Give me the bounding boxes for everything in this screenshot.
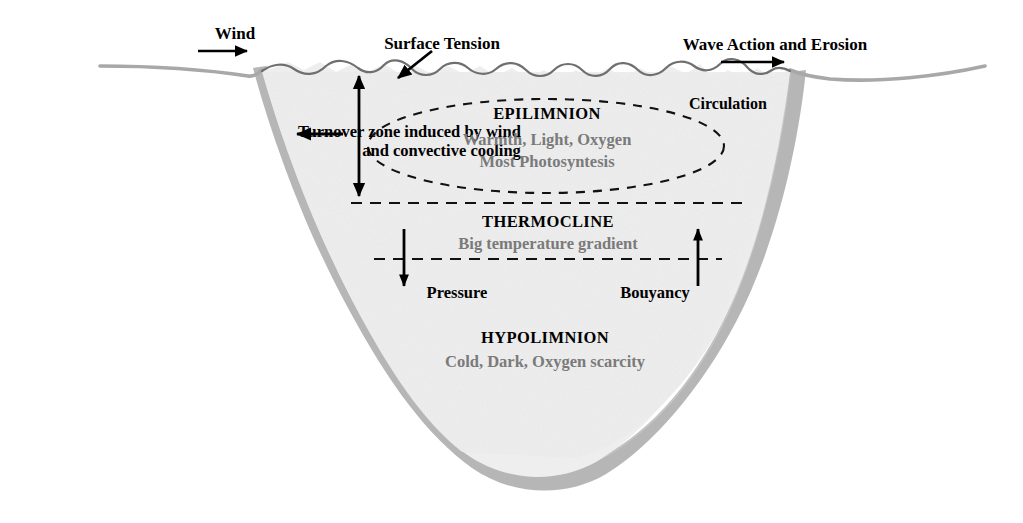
epilimnion-description-line-1: Warmth, Light, Oxygen [463, 130, 632, 149]
buoyancy-label: Bouyancy [620, 283, 690, 302]
wind-label: Wind [215, 24, 255, 44]
circulation-label: Circulation [689, 95, 767, 114]
surface-tension-label: Surface Tension [384, 34, 500, 54]
lake-cross-section-graphic [0, 0, 1023, 523]
hypolimnion-description: Cold, Dark, Oxygen scarcity [445, 352, 645, 371]
left-shore-line [100, 66, 262, 76]
pressure-label: Pressure [427, 283, 488, 302]
thermocline-description: Big temperature gradient [458, 234, 637, 253]
right-shore-line [790, 66, 985, 80]
thermocline-title: THERMOCLINE [482, 212, 614, 231]
lake-stratification-diagram: Wind Surface Tension Wave Action and Ero… [0, 0, 1023, 523]
epilimnion-description-line-2: Most Photosyntesis [479, 152, 614, 171]
epilimnion-title: EPILIMNION [493, 104, 601, 123]
wave-action-label: Wave Action and Erosion [683, 35, 867, 55]
hypolimnion-title: HYPOLIMNION [481, 328, 609, 347]
